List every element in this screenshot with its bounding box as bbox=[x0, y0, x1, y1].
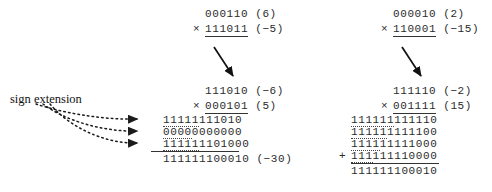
right-bottom-multiplicand-value: (−2) bbox=[443, 85, 472, 97]
right-bottom-multiplicand: 111110 bbox=[393, 85, 436, 97]
figure-canvas: 000110 (6) × 111011 (−5) 111010 (−6) × 0… bbox=[0, 0, 492, 192]
left-partial-row-3: 111111101000 bbox=[151, 138, 249, 151]
left-bottom-multiplier: 000101 bbox=[205, 100, 248, 114]
left-top-operator: × bbox=[193, 23, 205, 35]
left-partial-3-body: 1101000 bbox=[199, 138, 249, 150]
right-partial-2-body: 1111100 bbox=[387, 126, 437, 138]
right-top-operator: × bbox=[381, 23, 393, 35]
right-top-multiplicand-value: (2) bbox=[443, 8, 465, 20]
left-top-multiplier: 111011 bbox=[205, 23, 248, 37]
left-flow-arrow bbox=[214, 47, 233, 76]
right-partial-4-operator: + bbox=[339, 150, 351, 162]
right-bottom-multiplicand-row: 111110 (−2) bbox=[381, 85, 472, 97]
left-top-multiplier-value: (−5) bbox=[255, 23, 284, 35]
left-sum-annotation: (−30) bbox=[256, 153, 292, 165]
right-top-multiplier: 110001 bbox=[393, 23, 436, 37]
right-top-multiplier-row: × 110001 (−15) bbox=[381, 23, 479, 37]
left-sum-row: 111111100010 (−30) bbox=[151, 153, 292, 165]
right-sum-row: 111111100010 bbox=[351, 165, 437, 177]
left-partial-3-sign-extension: 11111 bbox=[163, 138, 199, 151]
right-partial-3-body: 11111000 bbox=[380, 138, 438, 150]
right-top-multiplier-value: (−15) bbox=[443, 23, 479, 35]
left-top-multiplier-row: × 111011 (−5) bbox=[193, 23, 284, 37]
left-sum-value: 111111100010 bbox=[163, 153, 249, 165]
sign-extension-label: sign extension bbox=[10, 92, 82, 107]
left-bottom-multiplicand-row: 111010 (−6) bbox=[193, 85, 284, 97]
right-partial-row-4: + 111111110000 bbox=[339, 150, 437, 163]
right-sum-value: 111111100010 bbox=[351, 165, 437, 177]
right-flow-arrow bbox=[402, 47, 421, 76]
left-partial-1-body: 111010 bbox=[199, 114, 242, 126]
right-top-multiplicand-row: 000010 (2) bbox=[381, 8, 465, 20]
left-bottom-multiplicand: 111010 bbox=[205, 85, 248, 97]
sign-extension-arrow-3 bbox=[50, 104, 137, 143]
right-bottom-multiplier-value: (15) bbox=[443, 100, 472, 112]
right-bottom-operator: × bbox=[381, 100, 393, 112]
right-sum-rule bbox=[351, 163, 439, 164]
right-partial-4-sign-extension: 111 bbox=[351, 150, 373, 163]
left-bottom-operator: × bbox=[193, 100, 205, 112]
right-partial-1-body: 111110 bbox=[394, 114, 437, 126]
left-bottom-multiplier-value: (5) bbox=[255, 100, 277, 112]
left-bottom-multiplicand-value: (−6) bbox=[255, 85, 284, 97]
sign-extension-arrow-2 bbox=[43, 104, 137, 131]
left-sum-rule bbox=[151, 151, 239, 152]
left-partial-2-body: 0000000 bbox=[192, 126, 242, 138]
left-top-multiplicand: 000110 bbox=[205, 8, 248, 20]
left-top-multiplicand-value: (6) bbox=[255, 8, 277, 20]
right-top-multiplicand: 000010 bbox=[393, 8, 436, 20]
right-bottom-multiplier-row: × 001111 (15) bbox=[381, 100, 472, 114]
right-partial-4-body: 111110000 bbox=[373, 150, 438, 162]
left-top-multiplicand-row: 000110 (6) bbox=[193, 8, 277, 20]
right-bottom-multiplier: 001111 bbox=[393, 100, 436, 114]
left-bottom-multiplier-row: × 000101 (5) bbox=[193, 100, 277, 114]
